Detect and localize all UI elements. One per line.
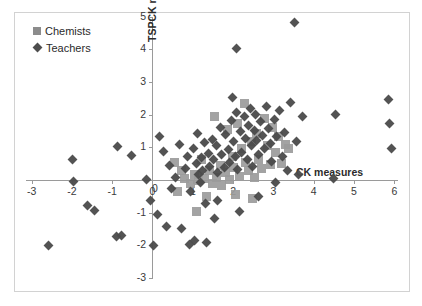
y-tick-label: 3 [124, 76, 146, 87]
legend-label-teachers: Teachers [46, 42, 91, 54]
y-tick-mark [149, 147, 153, 148]
legend-label-chemists: Chemists [45, 25, 91, 37]
y-tick-mark [149, 278, 153, 279]
y-tick-label: -2 [124, 239, 146, 250]
scatter-chart: Chemists Teachers CK measures TSPCK meas… [0, 0, 422, 306]
chart-legend: Chemists Teachers [33, 22, 91, 56]
y-tick-label: -3 [124, 272, 146, 283]
legend-item-chemists: Chemists [33, 22, 91, 39]
y-axis-title: TSPCK measures [146, 0, 158, 42]
legend-item-teachers: Teachers [33, 39, 91, 56]
y-tick-label: 1 [124, 141, 146, 152]
x-tick-mark [32, 180, 33, 184]
data-point-chemists [250, 173, 259, 182]
x-tick-mark [354, 180, 355, 184]
x-tick-label: -2 [59, 186, 85, 197]
square-marker-icon [33, 27, 41, 35]
y-tick-mark [149, 115, 153, 116]
data-point-chemists [192, 207, 201, 216]
y-tick-label: -1 [124, 207, 146, 218]
x-tick-label: 5 [341, 186, 367, 197]
y-tick-label: 2 [124, 109, 146, 120]
x-tick-label: -3 [19, 186, 45, 197]
data-point-chemists [231, 190, 240, 199]
x-tick-label: 4 [301, 186, 327, 197]
x-tick-label: 6 [381, 186, 407, 197]
diamond-marker-icon [33, 43, 43, 53]
data-point-chemists [257, 164, 266, 173]
y-tick-mark [149, 82, 153, 83]
x-tick-mark [112, 180, 113, 184]
data-point-chemists [210, 112, 219, 121]
x-tick-label: 3 [260, 186, 286, 197]
x-tick-mark [314, 180, 315, 184]
y-tick-label: 5 [124, 11, 146, 22]
x-tick-label: -1 [99, 186, 125, 197]
x-tick-mark [394, 180, 395, 184]
y-tick-label: 4 [124, 43, 146, 54]
data-point-chemists [225, 175, 234, 184]
y-tick-mark [149, 17, 153, 18]
data-point-chemists [284, 144, 293, 153]
y-tick-mark [149, 49, 153, 50]
